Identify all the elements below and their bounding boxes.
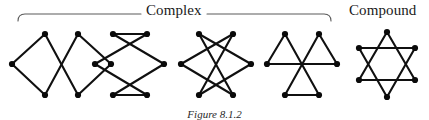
vertex-node bbox=[384, 94, 390, 100]
vertex-node bbox=[356, 77, 362, 83]
vertex-node bbox=[248, 61, 254, 67]
vertex-node bbox=[92, 61, 98, 67]
compound-hexagram-star-of-david bbox=[356, 29, 418, 100]
vertex-node bbox=[161, 61, 167, 67]
vertex-node bbox=[316, 31, 322, 37]
edge bbox=[319, 34, 337, 64]
vertex-node bbox=[178, 61, 184, 67]
vertex-node bbox=[356, 45, 362, 51]
vertex-node bbox=[230, 31, 236, 37]
vertex-node bbox=[264, 61, 270, 67]
complex-hexagram-3 bbox=[178, 31, 254, 98]
hexagram-diagram-canvas bbox=[0, 0, 429, 120]
figure-caption: Figure 8.1.2 bbox=[0, 108, 429, 120]
vertex-node bbox=[412, 45, 418, 51]
vertex-node bbox=[42, 31, 48, 37]
vertex-node bbox=[110, 31, 116, 37]
complex-hexagram-1 bbox=[9, 31, 114, 98]
group-label-complex: Complex bbox=[146, 3, 202, 18]
vertex-node bbox=[412, 77, 418, 83]
vertex-node bbox=[110, 92, 116, 98]
vertex-node bbox=[75, 31, 81, 37]
edge bbox=[78, 34, 111, 64]
group-label-compound: Compound bbox=[349, 3, 416, 18]
vertex-node bbox=[75, 92, 81, 98]
complex-hexagram-4 bbox=[264, 31, 340, 98]
vertex-node bbox=[334, 61, 340, 67]
edge bbox=[78, 64, 111, 95]
vertex-node bbox=[196, 31, 202, 37]
edge bbox=[267, 34, 285, 64]
brace-left-segment bbox=[18, 14, 141, 21]
vertex-node bbox=[9, 61, 15, 67]
figure-container: Complex Compound Figure 8.1.2 bbox=[0, 0, 429, 120]
vertex-node bbox=[42, 92, 48, 98]
complex-hexagram-2 bbox=[92, 31, 167, 98]
vertex-node bbox=[196, 92, 202, 98]
vertex-node bbox=[316, 92, 322, 98]
edge bbox=[12, 34, 45, 64]
vertex-node bbox=[282, 92, 288, 98]
brace-right-segment bbox=[207, 14, 331, 21]
edge bbox=[12, 64, 45, 95]
vertex-node bbox=[384, 29, 390, 35]
vertex-node bbox=[230, 92, 236, 98]
vertex-node bbox=[144, 92, 150, 98]
vertex-node bbox=[282, 31, 288, 37]
vertex-node bbox=[108, 61, 114, 67]
vertex-node bbox=[144, 31, 150, 37]
